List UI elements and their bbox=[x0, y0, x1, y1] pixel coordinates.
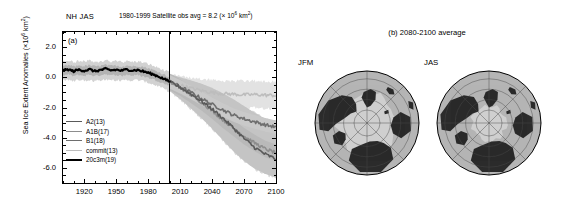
x-tick-bottom-1930 bbox=[95, 181, 96, 184]
panel-b-title: (b) 2080-2100 average bbox=[290, 28, 564, 37]
x-tick-top-2000 bbox=[170, 31, 171, 34]
x-tick-bottom-2090 bbox=[265, 181, 266, 184]
y-tick-right-3.0 bbox=[274, 32, 277, 33]
map-jas: JAS bbox=[430, 60, 548, 178]
legend-label-0: A2(13) bbox=[86, 117, 105, 127]
legend-swatch-3 bbox=[66, 150, 82, 151]
y-tick-right--3.0 bbox=[274, 123, 277, 124]
header-obs-mid: km bbox=[237, 12, 248, 19]
y-tick-right--4.0 bbox=[272, 138, 276, 139]
x-tick-top-2090 bbox=[265, 31, 266, 34]
y-tick-left--7.0 bbox=[63, 183, 66, 184]
legend-label-4: 20c3m(19) bbox=[86, 155, 116, 165]
y-tick-right-1.0 bbox=[274, 62, 277, 63]
y-axis-label-post: ) bbox=[21, 16, 30, 18]
y-tick-label-4: -6.0 bbox=[0, 164, 56, 172]
legend-swatch-4 bbox=[66, 159, 82, 161]
legend-entry-3: commit(13) bbox=[66, 146, 118, 156]
y-tick-right--0.5 bbox=[274, 85, 277, 86]
y-tick-left--2.5 bbox=[63, 115, 66, 116]
x-tick-label-0: 1920 bbox=[67, 188, 101, 196]
header-satellite-obs: 1980-1999 Satellite obs avg = 8.2 (× 106… bbox=[119, 11, 252, 19]
x-tick-top-2080 bbox=[255, 31, 256, 34]
x-tick-bottom-1990 bbox=[159, 181, 160, 184]
x-tick-bottom-1920 bbox=[84, 179, 85, 183]
panel-a-timeseries: NH JAS 1980-1999 Satellite obs avg = 8.2… bbox=[0, 0, 290, 210]
y-tick-label-2: -2.0 bbox=[0, 104, 56, 112]
x-tick-bottom-2080 bbox=[255, 181, 256, 184]
legend-entry-0: A2(13) bbox=[66, 117, 118, 127]
x-tick-top-1990 bbox=[159, 31, 160, 34]
y-tick-label-1: 0.0 bbox=[0, 73, 56, 81]
x-tick-bottom-2040 bbox=[212, 179, 213, 183]
y-tick-right--1.5 bbox=[274, 100, 277, 101]
legend-swatch-2 bbox=[66, 140, 82, 141]
x-tick-top-1960 bbox=[127, 31, 128, 34]
map-jfm: JFM bbox=[308, 60, 426, 178]
map-jas-svg bbox=[430, 60, 548, 178]
header-obs-pre: 1980-1999 Satellite obs avg = 8.2 (× 10 bbox=[119, 12, 234, 19]
x-tick-label-2: 1980 bbox=[131, 188, 165, 196]
y-tick-right--3.5 bbox=[274, 130, 277, 131]
x-tick-top-2040 bbox=[212, 31, 213, 35]
y-tick-right-2.5 bbox=[274, 40, 277, 41]
x-tick-bottom-2030 bbox=[201, 181, 202, 184]
x-tick-top-2030 bbox=[201, 31, 202, 34]
x-tick-bottom-2050 bbox=[223, 181, 224, 184]
x-tick-bottom-1960 bbox=[127, 181, 128, 184]
x-tick-bottom-1980 bbox=[148, 179, 149, 183]
y-tick-right-2.0 bbox=[272, 47, 276, 48]
x-tick-bottom-2070 bbox=[244, 179, 245, 183]
x-tick-top-2060 bbox=[233, 31, 234, 34]
y-tick-right--5.0 bbox=[274, 153, 277, 154]
x-tick-top-2010 bbox=[180, 31, 181, 35]
legend-entry-1: A1B(17) bbox=[66, 127, 118, 137]
x-tick-label-1: 1950 bbox=[99, 188, 133, 196]
y-tick-left--1.5 bbox=[63, 100, 66, 101]
x-tick-bottom-1940 bbox=[106, 181, 107, 184]
x-tick-label-4: 2040 bbox=[195, 188, 229, 196]
x-tick-label-3: 2010 bbox=[163, 188, 197, 196]
y-tick-right--6.0 bbox=[272, 168, 276, 169]
x-tick-top-2020 bbox=[191, 31, 192, 34]
x-tick-bottom-2010 bbox=[180, 179, 181, 183]
y-tick-left--0.5 bbox=[63, 85, 66, 86]
x-tick-top-1950 bbox=[116, 31, 117, 35]
y-tick-left-1.5 bbox=[63, 55, 66, 56]
y-tick-left-2.0 bbox=[63, 47, 67, 48]
x-tick-label-6: 2100 bbox=[259, 188, 293, 196]
x-tick-bottom-1910 bbox=[74, 181, 75, 184]
y-tick-right--7.0 bbox=[274, 183, 277, 184]
y-axis-label-mid: km bbox=[21, 21, 30, 33]
legend-swatch-1 bbox=[66, 131, 82, 132]
legend-label-3: commit(13) bbox=[86, 146, 118, 156]
x-tick-bottom-1970 bbox=[138, 181, 139, 184]
y-tick-left-1.0 bbox=[63, 62, 66, 63]
x-tick-top-1910 bbox=[74, 31, 75, 34]
y-tick-left--6.0 bbox=[63, 168, 67, 169]
map-jfm-svg bbox=[308, 60, 426, 178]
y-tick-right--6.5 bbox=[274, 175, 277, 176]
y-tick-label-3: -4.0 bbox=[0, 134, 56, 142]
y-tick-right--5.5 bbox=[274, 160, 277, 161]
legend-swatch-0 bbox=[66, 121, 82, 122]
y-tick-right--1.0 bbox=[274, 92, 277, 93]
y-tick-right--2.0 bbox=[272, 108, 276, 109]
x-tick-top-1980 bbox=[148, 31, 149, 35]
legend-entry-4: 20c3m(19) bbox=[66, 155, 118, 165]
x-tick-top-1920 bbox=[84, 31, 85, 35]
y-axis-label-exp1: 6 bbox=[20, 33, 26, 36]
y-tick-right-0.5 bbox=[274, 70, 277, 71]
x-tick-label-5: 2070 bbox=[227, 188, 261, 196]
x-tick-top-1930 bbox=[95, 31, 96, 34]
y-tick-left-0.0 bbox=[63, 77, 67, 78]
x-tick-bottom-2000 bbox=[170, 181, 171, 184]
x-tick-bottom-1950 bbox=[116, 179, 117, 183]
legend: A2(13)A1B(17)B1(18)commit(13)20c3m(19) bbox=[66, 117, 118, 165]
y-tick-left--6.5 bbox=[63, 175, 66, 176]
legend-label-1: A1B(17) bbox=[86, 127, 109, 137]
y-tick-left-3.0 bbox=[63, 32, 66, 33]
panel-b-maps: (b) 2080-2100 average JFMJAS bbox=[290, 0, 564, 210]
x-tick-top-2100 bbox=[276, 31, 277, 35]
y-tick-left--1.0 bbox=[63, 92, 66, 93]
